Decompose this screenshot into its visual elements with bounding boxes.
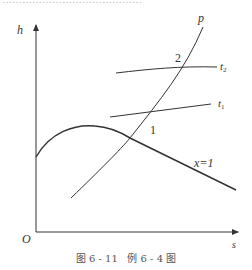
y-axis-label: h (17, 24, 23, 36)
state-point-2-label: 2 (175, 52, 181, 64)
t2-subscript: 2 (223, 66, 227, 74)
h-s-diagram (0, 0, 252, 270)
origin-label: O (22, 233, 31, 245)
isotherm-t1-label: t1 (218, 98, 225, 111)
saturation-label: x=1 (194, 157, 213, 169)
isotherm-t2-label: t2 (220, 61, 227, 74)
pressure-label: p (198, 12, 204, 24)
figure-caption: 图 6 - 11 例 6 - 4 图 (0, 250, 252, 265)
isobar-curve (71, 27, 203, 198)
isotherm-t1-line (110, 104, 211, 117)
isotherm-t2-line (116, 67, 217, 73)
t1-subscript: 1 (221, 103, 225, 111)
state-point-1-label: 1 (150, 124, 156, 136)
x-axis-label: s (232, 240, 236, 250)
